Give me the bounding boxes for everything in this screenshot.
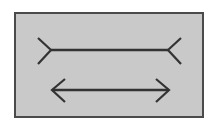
top-right-fin-icon: [168, 38, 181, 64]
illusion-svg-canvas: [16, 14, 202, 116]
top-left-fin-icon: [38, 38, 51, 64]
illusion-figure-root: [0, 0, 217, 126]
illusion-panel: [14, 12, 204, 118]
lower-muller-lyer-figure: [52, 79, 169, 102]
upper-muller-lyer-figure: [38, 38, 181, 64]
